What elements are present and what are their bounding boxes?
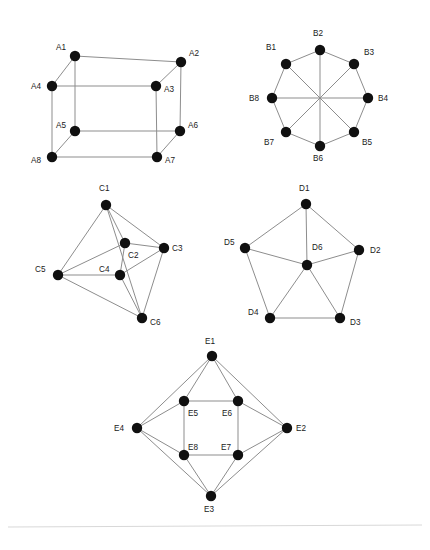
graph-canvas: A1A2A3A4A5A6A7A8B1B2B3B4B5B6B7B8C1C2C3C4…	[0, 0, 430, 550]
graph-node-B1[interactable]	[281, 59, 291, 69]
node-label-B8: B8	[249, 94, 260, 103]
node-label-A6: A6	[188, 121, 199, 130]
node-label-B4: B4	[378, 94, 389, 103]
graph-node-E2[interactable]	[282, 423, 292, 433]
node-label-A3: A3	[164, 85, 175, 94]
graph-node-C6[interactable]	[137, 313, 147, 323]
node-label-B1: B1	[266, 43, 277, 52]
graph-node-A1[interactable]	[70, 51, 80, 61]
node-label-C1: C1	[99, 184, 110, 193]
node-label-A1: A1	[56, 43, 67, 52]
node-label-D5: D5	[224, 238, 235, 247]
node-label-D3: D3	[350, 318, 361, 327]
graph-node-E7[interactable]	[233, 450, 243, 460]
graph-node-C1[interactable]	[101, 200, 111, 210]
node-label-B2: B2	[313, 29, 324, 38]
node-label-A2: A2	[189, 49, 200, 58]
node-label-E5: E5	[188, 409, 199, 418]
graph-node-B6[interactable]	[315, 141, 325, 151]
node-label-C6: C6	[150, 318, 161, 327]
graph-node-C2[interactable]	[120, 238, 130, 248]
node-label-E4: E4	[114, 424, 125, 433]
node-label-E2: E2	[296, 424, 307, 433]
graph-node-D1[interactable]	[301, 199, 311, 209]
graph-figure-panel: A1A2A3A4A5A6A7A8B1B2B3B4B5B6B7B8C1C2C3C4…	[0, 0, 430, 550]
graph-node-A6[interactable]	[175, 126, 185, 136]
node-label-C2: C2	[128, 251, 139, 260]
graph-node-E6[interactable]	[233, 396, 243, 406]
graph-node-B4[interactable]	[363, 93, 373, 103]
node-label-B6: B6	[313, 154, 324, 163]
graph-node-A8[interactable]	[47, 152, 57, 162]
node-label-E7: E7	[221, 443, 232, 452]
graph-node-A7[interactable]	[152, 152, 162, 162]
graph-node-B3[interactable]	[349, 59, 359, 69]
node-label-A7: A7	[165, 156, 176, 165]
graph-node-C4[interactable]	[115, 270, 125, 280]
node-label-E1: E1	[205, 337, 216, 346]
node-label-E3: E3	[204, 505, 215, 514]
node-label-D6: D6	[312, 243, 323, 252]
graph-node-E3[interactable]	[206, 491, 216, 501]
graph-node-B5[interactable]	[349, 127, 359, 137]
graph-node-D5[interactable]	[240, 243, 250, 253]
node-label-E8: E8	[188, 443, 199, 452]
graph-node-E1[interactable]	[207, 351, 217, 361]
graph-node-D3[interactable]	[335, 313, 345, 323]
node-label-E6: E6	[222, 409, 233, 418]
graph-node-C5[interactable]	[53, 270, 63, 280]
node-label-C4: C4	[99, 265, 110, 274]
node-label-C5: C5	[35, 265, 46, 274]
graph-node-A5[interactable]	[70, 126, 80, 136]
graph-node-D4[interactable]	[265, 313, 275, 323]
node-label-A8: A8	[31, 156, 42, 165]
graph-node-B7[interactable]	[281, 127, 291, 137]
node-label-B7: B7	[264, 138, 275, 147]
graph-node-E5[interactable]	[179, 396, 189, 406]
node-label-D4: D4	[248, 308, 259, 317]
node-label-A4: A4	[31, 82, 42, 91]
graph-node-A4[interactable]	[47, 81, 57, 91]
graph-node-A3[interactable]	[151, 81, 161, 91]
graph-node-C3[interactable]	[159, 243, 169, 253]
node-label-C3: C3	[172, 244, 183, 253]
node-label-D1: D1	[299, 184, 310, 193]
graph-node-D6[interactable]	[302, 260, 312, 270]
graph-node-A2[interactable]	[176, 57, 186, 67]
node-label-D2: D2	[370, 246, 381, 255]
graph-node-E4[interactable]	[132, 423, 142, 433]
node-label-B5: B5	[362, 138, 373, 147]
node-label-B3: B3	[364, 48, 375, 57]
graph-node-B2[interactable]	[315, 45, 325, 55]
graph-node-B8[interactable]	[267, 93, 277, 103]
graph-node-D2[interactable]	[354, 245, 364, 255]
node-label-A5: A5	[56, 121, 67, 130]
